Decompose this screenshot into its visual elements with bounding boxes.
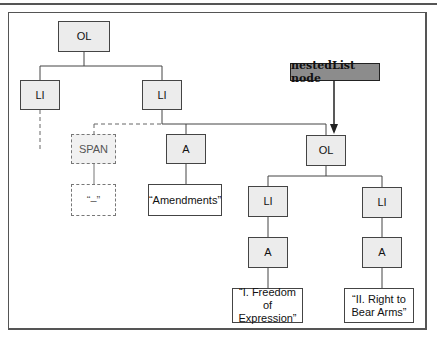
nested-li-2-node: LI — [362, 187, 402, 218]
freedom-text-node: “I. Freedom of Expression” — [232, 288, 303, 323]
node-label: “–” — [87, 194, 100, 207]
li-mid-node: LI — [142, 80, 182, 110]
node-label: LI — [263, 195, 272, 208]
node-label: “Amendments” — [149, 194, 221, 207]
pointer-label-text: nestedList node — [291, 59, 379, 85]
span-text-node: “–” — [71, 184, 116, 216]
node-label: LI — [35, 89, 44, 102]
span-node: SPAN — [71, 134, 116, 164]
root-ol-node: OL — [58, 21, 110, 52]
node-label: “I. Freedom of Expression” — [233, 286, 302, 325]
node-label: LI — [157, 89, 166, 102]
nested-a-2-node: A — [362, 237, 402, 268]
li-left-node: LI — [20, 80, 60, 110]
node-label: OL — [319, 144, 334, 157]
nested-ol-node: OL — [306, 135, 346, 166]
node-label: A — [378, 246, 385, 259]
nested-li-1-node: LI — [248, 186, 288, 217]
nested-a-1-node: A — [248, 237, 288, 268]
node-label: LI — [377, 196, 386, 209]
nestedlist-pointer-label: nestedList node — [290, 63, 380, 81]
amendments-text-node: “Amendments” — [148, 184, 222, 216]
node-label: A — [264, 246, 271, 259]
node-label: A — [182, 143, 189, 156]
bear-arms-text-node: “II. Right to Bear Arms” — [344, 288, 414, 323]
node-label: OL — [77, 30, 92, 43]
node-label: SPAN — [79, 143, 108, 156]
node-label: “II. Right to Bear Arms” — [345, 293, 413, 319]
a-mid-node: A — [166, 134, 206, 164]
